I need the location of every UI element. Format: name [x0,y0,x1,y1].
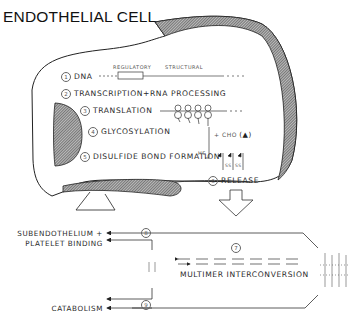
step-8-number: 8 [141,222,154,241]
binding-output-line2: PLATELET BINDING [5,239,103,248]
catabolism-output: CATABOLISM [5,304,103,313]
multimer-equilibrium-arrows [178,259,298,264]
step-7-number: 7 [231,243,243,253]
step-9-number: 9 [141,294,154,313]
structural-label: STRUCTURAL [165,64,203,70]
binding-output-line1: SUBENDOTHELIUM + [5,229,103,238]
hs-label: HS [198,150,206,156]
release-arrow [219,190,253,216]
multimer-schematic [320,253,350,287]
monomer-glyph [149,262,155,272]
step-1: 1DNA [61,72,93,82]
regulatory-label: REGULATORY [113,64,151,70]
step-6: 6RELEASE [208,176,259,186]
ss-label-1: SS [225,163,232,168]
ss-label-2: SS [235,163,242,168]
diagram-title: ENDOTHELIAL CELL [3,8,156,26]
cho-label: + CHO (▲) [214,131,252,139]
step-2: 2TRANSCRIPTION+RNA PROCESSING [61,89,226,99]
step-4: 4GLYCOSYLATION [88,127,170,137]
step-7-label: MULTIMER INTERCONVERSION [180,270,309,279]
step-3: 3TRANSLATION [80,106,152,116]
